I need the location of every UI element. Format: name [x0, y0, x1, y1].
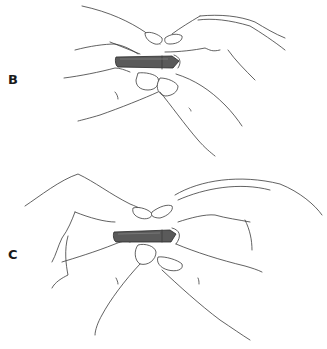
stick-b — [115, 56, 179, 68]
hands-illustration-c — [0, 160, 327, 349]
panel-c: C — [0, 160, 327, 349]
hands-illustration-b — [0, 0, 327, 175]
panel-b: B — [0, 0, 327, 175]
stick-c — [113, 230, 176, 242]
